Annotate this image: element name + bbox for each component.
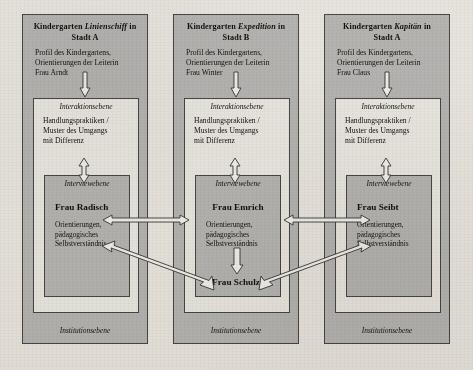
column-title-city: Stadt A bbox=[72, 33, 99, 42]
profile-line-3: Frau Arndt bbox=[35, 68, 68, 77]
column-title-suffix: in bbox=[422, 22, 431, 31]
column-title-prefix: Kindergarten bbox=[187, 22, 238, 31]
column-title-city: Stadt A bbox=[374, 33, 401, 42]
interaktionsebene-label: Interaktionsebene bbox=[185, 102, 289, 111]
person-body-line-1: Orientierungen, bbox=[55, 220, 102, 229]
column-title-name: Kapitän bbox=[394, 22, 422, 31]
column-title-prefix: Kindergarten bbox=[343, 22, 394, 31]
institutionsebene-label-col2: Institutionsebene bbox=[174, 326, 298, 335]
profile-line-3: Frau Winter bbox=[186, 68, 222, 77]
arrow-profile-to-interaktion-col2 bbox=[230, 72, 242, 98]
column-title-name: Linienschiff bbox=[85, 22, 127, 31]
interaktion-line-2: Muster des Umgangs bbox=[194, 126, 259, 135]
profile-line-3: Frau Claus bbox=[337, 68, 370, 77]
interaktionsebene-body: Handlungspraktiken / Muster des Umgangs … bbox=[345, 116, 434, 147]
column-title: Kindergarten Linienschiff in Stadt A bbox=[29, 22, 141, 43]
interaktion-line-1: Handlungspraktiken / bbox=[43, 116, 109, 125]
institutionsebene-label-col1: Institutionsebene bbox=[23, 326, 147, 335]
column-title-suffix: in bbox=[127, 22, 136, 31]
person-body-line-3: Selbstverständnis bbox=[55, 239, 107, 248]
interaktion-line-1: Handlungspraktiken / bbox=[194, 116, 260, 125]
arrow-emrich-schulze bbox=[230, 248, 244, 275]
arrow-profile-to-interaktion-col3 bbox=[381, 72, 393, 98]
profile-line-1: Profil des Kindergartens, bbox=[35, 48, 111, 57]
person-body-line-2: pädagogisches bbox=[357, 230, 400, 239]
arrow-interaktion-interview-col3 bbox=[379, 158, 393, 183]
profile-line-2: Orientierungen der Leiterin bbox=[186, 58, 270, 67]
person-body-line-2: pädagogisches bbox=[55, 230, 98, 239]
person-frau-emrich: Frau Emrich bbox=[196, 202, 280, 212]
arrow-emrich-seibt bbox=[284, 213, 370, 227]
arrow-seibt-schulze bbox=[259, 240, 371, 290]
person-body-line-2: pädagogisches bbox=[206, 230, 249, 239]
arrow-radisch-emrich bbox=[103, 213, 189, 227]
interaktion-line-1: Handlungspraktiken / bbox=[345, 116, 411, 125]
column-title-prefix: Kindergarten bbox=[34, 22, 85, 31]
column-title-suffix: in bbox=[276, 22, 285, 31]
profile-line-2: Orientierungen der Leiterin bbox=[337, 58, 421, 67]
person-frau-radisch: Frau Radisch bbox=[55, 202, 125, 212]
interaktionsebene-body: Handlungspraktiken / Muster des Umgangs … bbox=[194, 116, 283, 147]
interaktion-line-3: mit Differenz bbox=[43, 136, 84, 145]
profile-line-1: Profil des Kindergartens, bbox=[186, 48, 262, 57]
interaktion-line-2: Muster des Umgangs bbox=[43, 126, 108, 135]
column-title: Kindergarten Kapitän in Stadt A bbox=[331, 22, 443, 43]
interaktion-line-3: mit Differenz bbox=[194, 136, 235, 145]
person-frau-seibt: Frau Seibt bbox=[357, 202, 427, 212]
interaktionsebene-label: Interaktionsebene bbox=[336, 102, 440, 111]
profile-line-2: Orientierungen der Leiterin bbox=[35, 58, 119, 67]
column-title: Kindergarten Expedition in Stadt B bbox=[180, 22, 292, 43]
person-body-line-1: Orientierungen, bbox=[206, 220, 253, 229]
arrow-interaktion-interview-col2 bbox=[228, 158, 242, 183]
interaktionsebene-body: Handlungspraktiken / Muster des Umgangs … bbox=[43, 116, 132, 147]
arrow-interaktion-interview-col1 bbox=[77, 158, 91, 183]
column-title-city: Stadt B bbox=[223, 33, 250, 42]
column-title-name: Expedition bbox=[238, 22, 276, 31]
interaktion-line-3: mit Differenz bbox=[345, 136, 386, 145]
institutionsebene-label-col3: Institutionsebene bbox=[325, 326, 449, 335]
arrow-radisch-schulze bbox=[102, 240, 214, 290]
arrow-profile-to-interaktion-col1 bbox=[79, 72, 91, 98]
interaktion-line-2: Muster des Umgangs bbox=[345, 126, 410, 135]
interaktionsebene-label: Interaktionsebene bbox=[34, 102, 138, 111]
profile-line-1: Profil des Kindergartens, bbox=[337, 48, 413, 57]
figure-canvas: Kindergarten Linienschiff in Stadt A Pro… bbox=[0, 0, 473, 370]
